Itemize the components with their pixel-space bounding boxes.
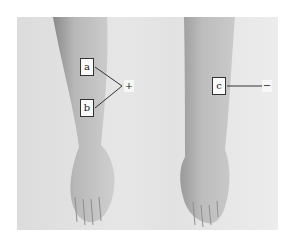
label-a: a xyxy=(80,58,94,76)
label-b: b xyxy=(80,99,94,117)
left-arm-illustration xyxy=(17,17,278,230)
plus-sign: + xyxy=(124,80,134,92)
label-c: c xyxy=(212,77,226,95)
arm-photograph xyxy=(17,17,278,230)
minus-sign: − xyxy=(262,80,272,92)
